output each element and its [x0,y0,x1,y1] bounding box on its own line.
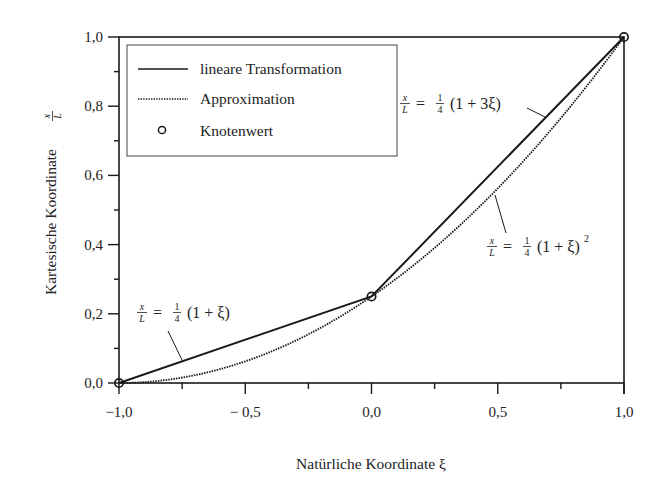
anno-one: 1 [525,235,530,246]
anno-den: L [401,104,408,115]
anno-eq: = [503,238,512,255]
annotation-leader-line [527,108,545,117]
anno-rest: (1 + ξ) [537,238,580,256]
y-tick-label: 0,4 [84,237,103,253]
anno-eq: = [416,95,425,112]
legend-label-approximation: Approximation [200,90,295,107]
annotation-approximation: x L = 1 4 (1 + ξ) 2 [487,195,589,258]
y-tick-label: 1,0 [84,29,103,45]
anno-rest: (1 + 3ξ) [450,95,501,113]
anno-four: 4 [175,313,180,324]
anno-num: x [402,92,408,103]
legend-label-linear: lineare Transformation [200,60,342,77]
anno-rest: (1 + ξ) [187,304,230,322]
anno-sup: 2 [584,233,589,244]
anno-num: x [139,301,145,312]
anno-four: 4 [525,247,530,258]
x-tick-label: −1,0 [105,404,132,420]
y-tick-label: 0,6 [84,167,103,183]
y-axis-title: Kartesische Koordinate x L [41,111,63,295]
legend: lineare Transformation Approximation Kno… [127,45,397,156]
anno-eq: = [153,304,162,321]
y-tick-labels: 0,00,20,40,60,81,0 [84,29,103,391]
anno-den: L [488,247,495,258]
x-tick-label: 0,0 [362,404,381,420]
x-tick-labels: −1,0− 0,50,00,51,0 [105,404,633,420]
y-axis-frac-num: x [41,113,52,119]
anno-one: 1 [175,301,180,312]
annotation-leader-line [495,195,506,233]
y-axis-frac-den: L [52,113,63,120]
y-axis-title-text: Kartesische Koordinate [42,149,59,295]
y-tick-label: 0,8 [84,98,103,114]
x-tick-label: − 0,5 [230,404,261,420]
x-tick-label: 0,5 [488,404,507,420]
y-tick-label: 0,2 [84,306,103,322]
legend-label-knotenwert: Knotenwert [200,122,274,139]
chart: −1,0− 0,50,00,51,0 0,00,20,40,60,81,0 Na… [0,0,667,495]
annotation-linear-right: x L = 1 4 (1 + 3ξ) [400,92,545,117]
annotation-linear-left: x L = 1 4 (1 + ξ) [137,301,230,362]
annotation-leader-line [168,331,183,362]
anno-four: 4 [438,104,443,115]
x-tick-label: 1,0 [615,404,634,420]
anno-den: L [138,313,145,324]
x-axis-title: Natürliche Koordinate ξ [296,455,446,472]
y-tick-label: 0,0 [84,375,103,391]
anno-num: x [489,235,495,246]
anno-one: 1 [438,92,443,103]
